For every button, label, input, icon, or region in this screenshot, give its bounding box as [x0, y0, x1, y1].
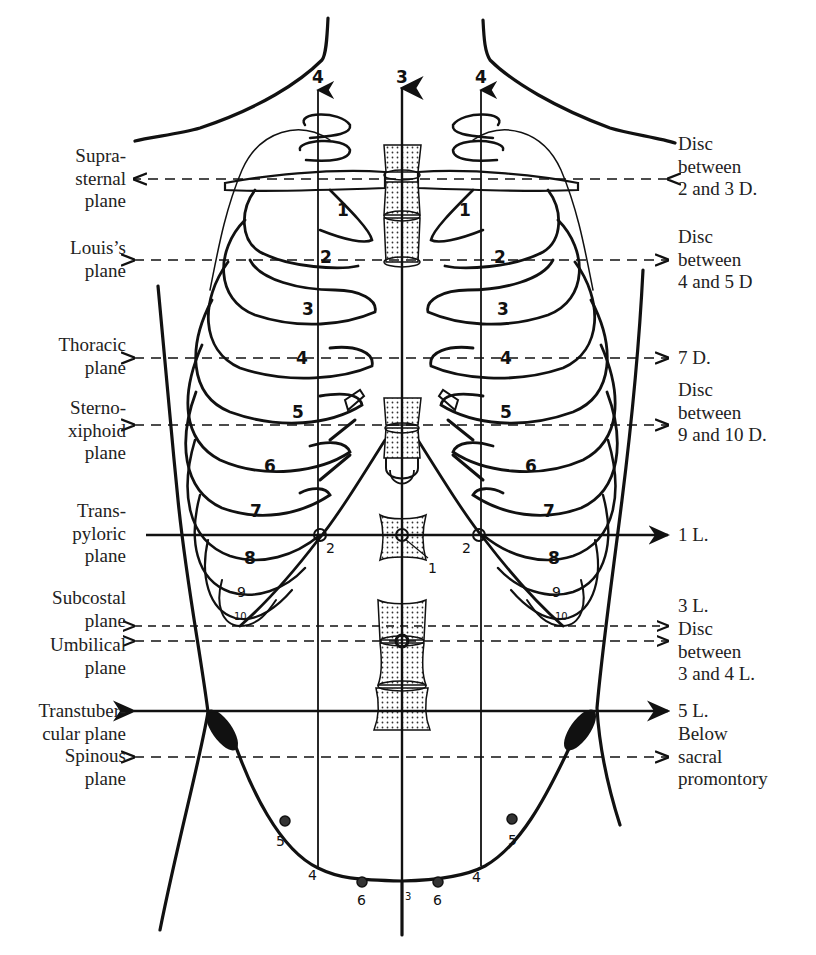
svg-text:3: 3 [302, 299, 314, 319]
svg-text:1: 1 [337, 200, 349, 220]
right-point-6 [433, 877, 443, 887]
svg-text:9: 9 [552, 584, 561, 600]
sternoxiphoid-plane-right-label: Discbetween9 and 10 D. [678, 379, 767, 447]
umbilical-plane-left-label: Umbilicalplane [50, 634, 126, 679]
transpyloric-plane-right-label: 1 L. [678, 524, 709, 547]
svg-text:4: 4 [500, 348, 512, 368]
svg-text:4: 4 [308, 867, 317, 883]
transpyloric-plane-left-label: Trans-pyloricplane [72, 500, 126, 568]
svg-text:2: 2 [494, 247, 506, 267]
svg-text:3: 3 [497, 299, 509, 319]
left-point-5 [280, 816, 290, 826]
subcostal-plane-left-label: Subcostalplane [52, 587, 126, 632]
svg-text:5: 5 [508, 832, 517, 848]
louis-plane-right-label: Discbetween4 and 5 D [678, 226, 752, 294]
left-point-6 [357, 877, 367, 887]
suprasternal-plane-left-label: Supra-sternalplane [75, 145, 126, 213]
sternoxiphoid-plane-left-label: Sterno-xiphoidplane [68, 397, 126, 465]
spinous-plane-right-label: Belowsacralpromontory [678, 723, 768, 791]
suprasternal-plane-right-label: Discbetween2 and 3 D. [678, 133, 757, 201]
pylorus-center-label: 1 [428, 560, 437, 576]
umbilical-plane-right-label: Discbetween3 and 4 L. [678, 618, 755, 686]
svg-text:4: 4 [296, 348, 308, 368]
svg-text:2: 2 [320, 247, 332, 267]
svg-text:7: 7 [543, 501, 555, 521]
svg-text:5: 5 [276, 833, 285, 849]
svg-text:5: 5 [500, 402, 512, 422]
svg-text:6: 6 [264, 456, 276, 476]
transtubercular-plane-left-label: Transtuber-cular plane [38, 700, 126, 745]
svg-text:6: 6 [357, 892, 366, 908]
svg-text:6: 6 [433, 892, 442, 908]
pyloric-right-label: 2 [462, 540, 471, 556]
svg-text:3: 3 [405, 891, 411, 902]
louis-plane-left-label: Louis’splane [70, 237, 126, 282]
svg-text:9: 9 [237, 584, 246, 600]
svg-text:8: 8 [244, 548, 256, 568]
thoracic-plane-right-label: 7 D. [678, 347, 711, 370]
spinous-plane-left-label: Spinousplane [65, 745, 126, 790]
svg-text:4: 4 [472, 869, 481, 885]
svg-text:5: 5 [292, 402, 304, 422]
right-shoulder-outline [483, 20, 675, 143]
ribcage-right [418, 114, 617, 626]
left-lateral-line-label: 4 [312, 67, 324, 87]
right-point-5 [507, 814, 517, 824]
svg-text:10: 10 [234, 611, 247, 622]
thoracic-plane-left-label: Thoracicplane [58, 334, 126, 379]
svg-text:6: 6 [525, 456, 537, 476]
vertical-line-labels: 4 3 4 [312, 67, 487, 87]
subcostal-plane-right-label: 3 L. [678, 595, 709, 618]
ribcage-left [186, 114, 385, 626]
left-shoulder-outline [135, 18, 328, 141]
svg-text:7: 7 [250, 501, 262, 521]
svg-text:1: 1 [459, 200, 471, 220]
svg-text:8: 8 [548, 548, 560, 568]
pyloric-left-label: 2 [326, 540, 335, 556]
svg-text:10: 10 [555, 611, 568, 622]
transtubercular-plane-right-label: 5 L. [678, 700, 709, 723]
median-line-label: 3 [396, 67, 408, 87]
right-lateral-line-label: 4 [475, 67, 487, 87]
